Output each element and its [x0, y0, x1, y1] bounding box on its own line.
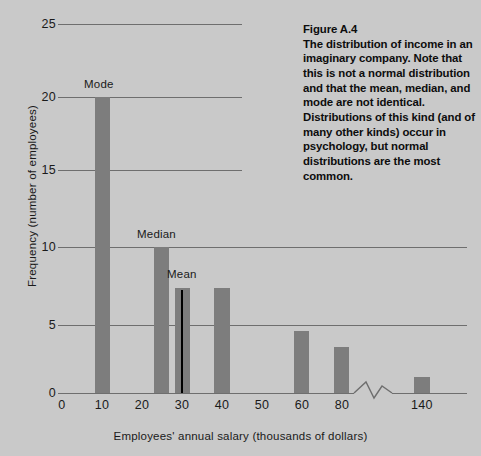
bar-40	[214, 288, 230, 393]
x-tick-40: 40	[202, 398, 242, 412]
gridline-10	[58, 247, 467, 248]
figure-caption-body: The distribution of income in an imagina…	[303, 37, 475, 184]
gridline-15	[58, 170, 242, 171]
figure-caption: Figure A.4 The distribution of income in…	[303, 22, 475, 183]
x-tick-60: 60	[282, 398, 322, 412]
bar-80	[334, 347, 349, 393]
gridline-5	[58, 325, 467, 326]
annotation-median: Median	[137, 228, 176, 240]
figure-a4-chart: Mode Median Mean 25 20 15 10 5 0 Frequen…	[0, 0, 481, 456]
x-tick-10: 10	[82, 398, 122, 412]
x-tick-0: 0	[42, 398, 82, 412]
x-tick-30: 30	[162, 398, 202, 412]
bar-60	[294, 331, 309, 393]
gridline-20	[58, 97, 242, 98]
x-tick-140: 140	[402, 398, 442, 412]
x-axis-title: Employees' annual salary (thousands of d…	[0, 430, 481, 442]
x-axis-line-left	[58, 393, 354, 394]
y-tick-25: 25	[30, 18, 56, 31]
gridline-25	[58, 24, 242, 25]
bar-10	[95, 97, 110, 393]
y-axis-title: Frequency (number of employees)	[26, 81, 38, 311]
annotation-mean: Mean	[167, 268, 197, 280]
figure-caption-title: Figure A.4	[303, 22, 475, 37]
annotation-mode: Mode	[84, 78, 114, 90]
x-tick-50: 50	[242, 398, 282, 412]
y-tick-5: 5	[30, 319, 56, 332]
mean-indicator-line	[181, 290, 183, 393]
x-tick-20: 20	[122, 398, 162, 412]
x-tick-80: 80	[322, 398, 362, 412]
bar-140	[414, 377, 430, 393]
x-axis-line-right	[392, 393, 467, 394]
